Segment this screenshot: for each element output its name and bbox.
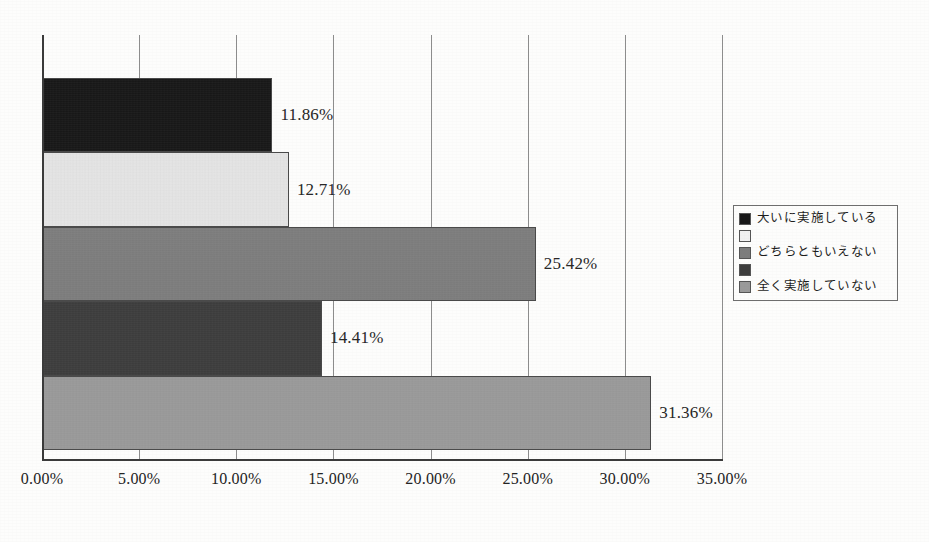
legend-swatch [739, 213, 751, 225]
bar-texture [43, 79, 271, 151]
legend-item [739, 227, 892, 244]
plot-area [42, 35, 722, 460]
gridline-x [722, 35, 723, 460]
chart-legend: 大いに実施しているどちらともいえない全く実施していない [733, 205, 898, 301]
x-axis-line [42, 459, 723, 461]
bar [42, 152, 289, 226]
legend-item [739, 261, 892, 278]
legend-swatch [739, 230, 751, 242]
bar [42, 78, 272, 152]
bar-value-label: 11.86% [280, 105, 333, 125]
x-axis-tick-label: 0.00% [21, 470, 63, 488]
legend-item: 大いに実施している [739, 210, 892, 227]
x-axis-tick-label: 20.00% [405, 470, 456, 488]
legend-swatch [739, 247, 751, 259]
x-axis-tick-label: 15.00% [308, 470, 359, 488]
bar-value-label: 31.36% [659, 403, 713, 423]
bar-value-label: 12.71% [297, 180, 351, 200]
y-axis-line [42, 35, 44, 460]
x-axis-tick-label: 35.00% [697, 470, 748, 488]
legend-item: 全く実施していない [739, 278, 892, 295]
x-axis-tick-label: 5.00% [118, 470, 160, 488]
legend-label: どちらともいえない [757, 246, 878, 259]
legend-swatch [739, 264, 751, 276]
bar-value-label: 25.42% [544, 254, 598, 274]
bar-texture [43, 153, 288, 225]
bar-value-label: 14.41% [330, 328, 384, 348]
bar-texture [43, 302, 321, 374]
x-axis-tick-label: 30.00% [600, 470, 651, 488]
bar [42, 301, 322, 375]
bar-texture [43, 377, 650, 449]
legend-swatch [739, 281, 751, 293]
legend-label: 大いに実施している [757, 212, 878, 225]
legend-item: どちらともいえない [739, 244, 892, 261]
bar [42, 376, 651, 450]
legend-label: 全く実施していない [757, 280, 878, 293]
chart-screenshot: 0.00%5.00%10.00%15.00%20.00%25.00%30.00%… [0, 0, 929, 542]
bar-texture [43, 228, 535, 300]
bar [42, 227, 536, 301]
x-axis-tick-label: 25.00% [502, 470, 553, 488]
x-axis-tick-label: 10.00% [211, 470, 262, 488]
